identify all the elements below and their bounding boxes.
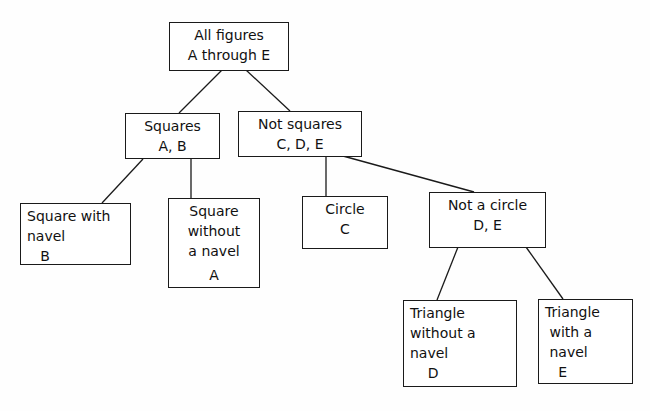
edge-not-circle-triangle-without	[437, 247, 458, 300]
node-square-with-navel: Square with navel B	[20, 203, 131, 265]
node-all-figures: All figures A through E	[169, 22, 289, 71]
node-line: with a	[545, 322, 632, 342]
edge-squares-with-navel	[102, 159, 143, 203]
edge-not-circle-triangle-with	[526, 247, 563, 299]
node-line: without a	[410, 323, 516, 343]
node-line: C	[303, 219, 387, 239]
node-line: navel	[410, 343, 516, 363]
node-line: Squares	[126, 116, 219, 136]
node-line: Circle	[303, 199, 387, 219]
node-line: A	[169, 265, 259, 285]
node-square-without-navel: Square without a navel A	[168, 198, 260, 288]
node-line: E	[545, 362, 632, 382]
node-triangle-with-navel: Triangle with a navel E	[538, 299, 633, 384]
node-line: Not squares	[239, 114, 361, 134]
node-line: navel	[27, 226, 130, 246]
node-line: D	[410, 363, 516, 383]
node-line: A through E	[170, 45, 288, 65]
node-line: Not a circle	[430, 195, 545, 215]
edge-not-squares-not-circle	[343, 156, 474, 192]
node-line: Triangle	[545, 302, 632, 322]
node-line: a navel	[169, 241, 259, 261]
node-line: A, B	[126, 136, 219, 156]
node-triangle-without-navel: Triangle without a navel D	[403, 300, 517, 387]
classification-tree-diagram: All figures A through E Squares A, B Not…	[0, 0, 650, 411]
node-line: Triangle	[410, 303, 516, 323]
node-line: without	[169, 221, 259, 241]
node-not-a-circle: Not a circle D, E	[429, 192, 546, 248]
node-not-squares: Not squares C, D, E	[238, 111, 362, 157]
edge-root-squares	[179, 70, 222, 113]
node-line: Square	[169, 201, 259, 221]
node-line: All figures	[170, 25, 288, 45]
node-line: D, E	[430, 215, 545, 235]
node-line: B	[27, 246, 130, 266]
node-circle: Circle C	[302, 196, 388, 249]
node-line: Square with	[27, 206, 130, 226]
node-line: C, D, E	[239, 134, 361, 154]
node-line: navel	[545, 342, 632, 362]
edge-root-not-squares	[246, 70, 290, 111]
node-squares: Squares A, B	[125, 113, 220, 159]
